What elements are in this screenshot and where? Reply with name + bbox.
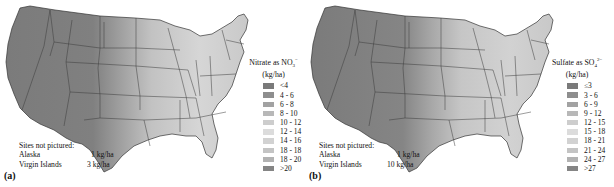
- legend-swatch: [567, 138, 578, 144]
- legend-item: 6 - 9: [567, 100, 605, 109]
- nitrate-map-panel: Nitrate as NO3− (kg/ha) <4 4 - 6 6 - 8 8…: [0, 0, 307, 187]
- legend-swatch: [263, 166, 274, 172]
- legend-item: 9 - 12: [567, 109, 605, 118]
- legend-swatch: [567, 148, 578, 154]
- legend-item: 14 - 16: [263, 136, 301, 145]
- site-row-virgin-islands: Virgin Islands3 kg/ha: [19, 160, 114, 169]
- legend-swatch: [263, 120, 274, 126]
- legend-swatch: [567, 157, 578, 163]
- legend-unit: (kg/ha): [549, 70, 605, 79]
- legend-swatch: [567, 111, 578, 117]
- panel-label-b: (b): [309, 170, 321, 181]
- legend-swatch: [263, 102, 274, 108]
- legend-swatch: [263, 111, 274, 117]
- site-row-alaska: Alaska1 kg/ha: [19, 150, 114, 159]
- legend-item: 12 - 15: [567, 118, 605, 127]
- legend-item: 12 - 14: [263, 127, 301, 136]
- legend-swatch: [567, 120, 578, 126]
- legend-item: ≤3: [567, 81, 605, 90]
- sites-heading: Sites not pictured:: [319, 141, 420, 150]
- legend-item: 15 - 18: [567, 127, 605, 136]
- legend-swatch: [263, 148, 274, 154]
- legend-item: 18 - 21: [567, 136, 605, 145]
- legend-swatch: [263, 129, 274, 135]
- legend-item: <4: [263, 81, 301, 90]
- legend-swatch: [567, 129, 578, 135]
- legend-item: 21 - 24: [567, 146, 605, 155]
- sites-not-pictured: Sites not pictured: Alaska1 kg/ha Virgin…: [19, 141, 114, 169]
- legend-item: 18 - 20: [263, 155, 301, 164]
- legend-item: >20: [263, 164, 301, 173]
- legend-title: Nitrate as NO3−: [246, 55, 301, 70]
- legend-swatch: [567, 102, 578, 108]
- legend-item: 4 - 6: [263, 91, 301, 100]
- legend-swatch: [263, 157, 274, 163]
- legend-item: 10 - 12: [263, 118, 301, 127]
- legend-swatch: [567, 83, 578, 89]
- sites-heading: Sites not pictured:: [19, 141, 114, 150]
- legend-swatch: [567, 166, 578, 172]
- legend-swatch: [263, 138, 274, 144]
- legend-title: Sulfate as SO42−: [549, 55, 605, 70]
- sites-not-pictured: Sites not pictured: Alaska1 kg/ha Virgin…: [319, 141, 420, 169]
- legend-swatch: [567, 92, 578, 98]
- legend: Sulfate as SO42− (kg/ha) ≤3 3 - 6 6 - 9 …: [549, 55, 605, 173]
- legend-item: 24 - 27: [567, 155, 605, 164]
- legend-item: 8 - 10: [263, 109, 301, 118]
- legend-item: 18 - 18: [263, 146, 301, 155]
- site-row-alaska: Alaska1 kg/ha: [319, 150, 420, 159]
- legend: Nitrate as NO3− (kg/ha) <4 4 - 6 6 - 8 8…: [246, 55, 301, 173]
- site-row-virgin-islands: Virgin Islands10 kg/ha: [319, 160, 420, 169]
- legend-item: 3 - 6: [567, 91, 605, 100]
- legend-swatch: [263, 92, 274, 98]
- legend-item: >27: [567, 164, 605, 173]
- legend-swatch: [263, 83, 274, 89]
- legend-item: 6 - 8: [263, 100, 301, 109]
- legend-unit: (kg/ha): [246, 70, 301, 79]
- panel-label-a: (a): [4, 170, 16, 181]
- sulfate-map-panel: Sulfate as SO42− (kg/ha) ≤3 3 - 6 6 - 9 …: [305, 0, 612, 187]
